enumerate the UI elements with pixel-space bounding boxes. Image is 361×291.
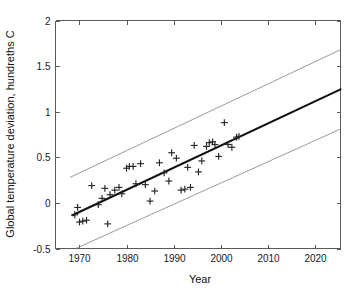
scatter-point — [191, 142, 198, 149]
y-tick-label-3: 1 — [45, 107, 51, 118]
y-axis-ticks — [56, 22, 341, 250]
scatter-point — [168, 149, 175, 156]
scatter-point — [165, 178, 172, 185]
x-tick-label-1: 1980 — [116, 253, 139, 264]
scatter-point — [130, 163, 137, 170]
x-axis-title: Year — [189, 273, 212, 285]
y-tick-label-5: 2 — [45, 16, 51, 27]
scatter-point — [147, 198, 154, 205]
lower-prediction-band-line — [76, 129, 341, 248]
scatter-point — [184, 164, 191, 171]
plot-data-layer — [70, 50, 340, 249]
scatter-point — [137, 160, 144, 167]
upper-prediction-band-line — [70, 50, 340, 178]
x-axis-tick-labels: 197019801990200020102020 — [68, 253, 327, 264]
scatter-point — [195, 168, 202, 175]
y-axis-tick-labels: -0.500.511.52 — [33, 16, 51, 255]
y-tick-label-4: 1.5 — [37, 61, 51, 72]
scatter-point — [151, 188, 158, 195]
scatter-point — [83, 217, 90, 224]
chart-figure: -0.500.511.52 197019801990200020102020 Y… — [0, 0, 361, 291]
scatter-point — [178, 187, 185, 194]
y-tick-label-1: 0 — [45, 198, 51, 209]
x-axis-ticks — [80, 21, 316, 249]
scatter-point — [104, 220, 111, 227]
y-tick-label-0: -0.5 — [33, 244, 51, 255]
regression-fit-line — [72, 89, 340, 215]
scatter-point — [173, 155, 180, 162]
scatter-point — [215, 153, 222, 160]
x-tick-label-3: 2000 — [210, 253, 233, 264]
scatter-markers — [71, 119, 242, 227]
x-tick-label-0: 1970 — [68, 253, 91, 264]
scatter-point — [76, 219, 83, 226]
scatter-point — [198, 158, 205, 165]
x-tick-label-5: 2020 — [304, 253, 327, 264]
scatter-point — [79, 218, 86, 225]
plot-axes-frame — [56, 21, 341, 249]
x-tick-label-4: 2010 — [257, 253, 280, 264]
scatter-point — [74, 204, 81, 211]
x-tick-label-2: 1990 — [163, 253, 186, 264]
scatter-point — [88, 182, 95, 189]
scatter-point — [101, 185, 108, 192]
scatter-point — [156, 159, 163, 166]
y-tick-label-2: 0.5 — [37, 152, 51, 163]
chart-canvas: -0.500.511.52 197019801990200020102020 Y… — [0, 0, 361, 291]
scatter-point — [221, 119, 228, 126]
y-axis-title: Global temperature deviation, hundreths … — [4, 30, 16, 237]
